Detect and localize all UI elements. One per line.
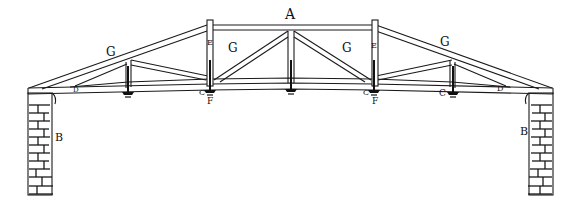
label-wall-left: B <box>55 131 63 144</box>
rafter-right <box>376 25 552 89</box>
rafter-left <box>29 25 207 89</box>
label-rafter-right: G <box>440 35 450 49</box>
label-rafter-left: G <box>106 45 116 59</box>
label-heel-right: D <box>497 84 503 93</box>
label-joint-right: C <box>363 88 369 97</box>
label-post-right: E <box>371 41 377 50</box>
label-post-left: E <box>207 38 213 47</box>
top-chord <box>213 25 372 30</box>
left-wall <box>28 93 56 195</box>
right-wall <box>525 93 553 195</box>
hanger-rods <box>122 60 459 97</box>
label-panel-left: G <box>228 41 238 55</box>
label-joint-left: C <box>199 88 205 97</box>
label-joint-far-right: C <box>439 88 446 98</box>
label-hanger-left: F <box>207 96 213 106</box>
label-panel-right: G <box>342 41 352 55</box>
truss-diagram: A G G G G E E C C C F F D D B B <box>0 0 580 205</box>
label-wall-right: B <box>520 125 528 138</box>
label-heel-left: D <box>73 86 79 94</box>
label-hanger-right: F <box>372 96 378 106</box>
center-diagonals <box>214 31 371 82</box>
label-top-chord: A <box>284 6 296 22</box>
